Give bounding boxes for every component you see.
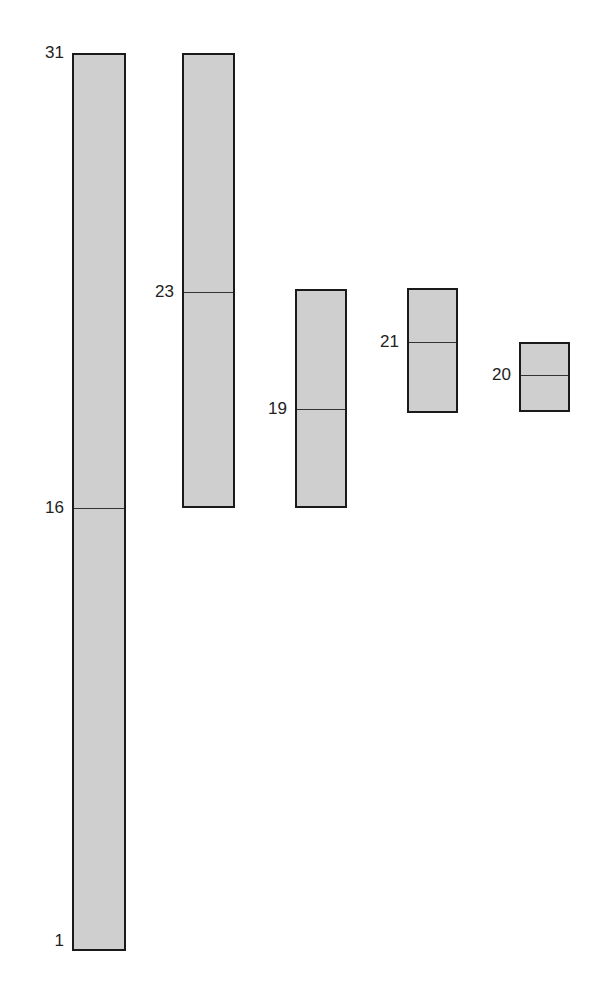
segment-divider: [297, 409, 345, 410]
segment-bar: [72, 53, 126, 951]
segment-bar: [182, 53, 235, 508]
segment-divider: [74, 508, 124, 509]
segment-bar: [407, 288, 458, 413]
segment-divider: [409, 342, 456, 343]
segment-mid-label: 23: [134, 283, 174, 300]
segment-bar: [519, 342, 570, 412]
segment-divider: [184, 292, 233, 293]
segment-mid-label: 20: [471, 366, 511, 383]
segment-bar: [295, 289, 347, 508]
segment-mid-label: 16: [24, 499, 64, 516]
segment-divider: [521, 375, 568, 376]
segment-mid-label: 19: [247, 400, 287, 417]
segment-bottom-label: 1: [24, 932, 64, 949]
segment-top-label: 31: [24, 44, 64, 61]
segment-mid-label: 21: [359, 333, 399, 350]
